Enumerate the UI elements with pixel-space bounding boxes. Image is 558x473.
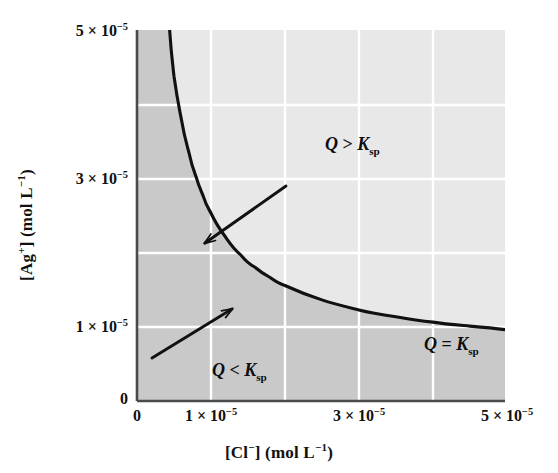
annotation-q-less-ksp: Q < Ksp	[212, 360, 267, 381]
y-tick-label-0: 0	[18, 390, 128, 408]
annotation-q-equal-ksp: Q = Ksp	[424, 334, 479, 355]
y-axis-title: [Ag+] (mol L−1)	[17, 125, 37, 325]
x-tick-label-1: 1 × 10−5	[156, 407, 266, 425]
x-tick-label-5: 5 × 10−5	[452, 407, 558, 425]
y-tick-label-5: 5 × 10−5	[18, 22, 128, 40]
annotation-q-greater-ksp: Q > Ksp	[325, 134, 380, 155]
x-tick-label-3: 3 × 10−5	[304, 407, 414, 425]
x-tick-label-0: 0	[117, 407, 157, 425]
x-axis-title: [Cl−] (mol L−1)	[0, 443, 558, 463]
chart-figure: 5 × 10−5 3 × 10−5 1 × 10−5 0 0 1 × 10−5 …	[0, 0, 558, 473]
